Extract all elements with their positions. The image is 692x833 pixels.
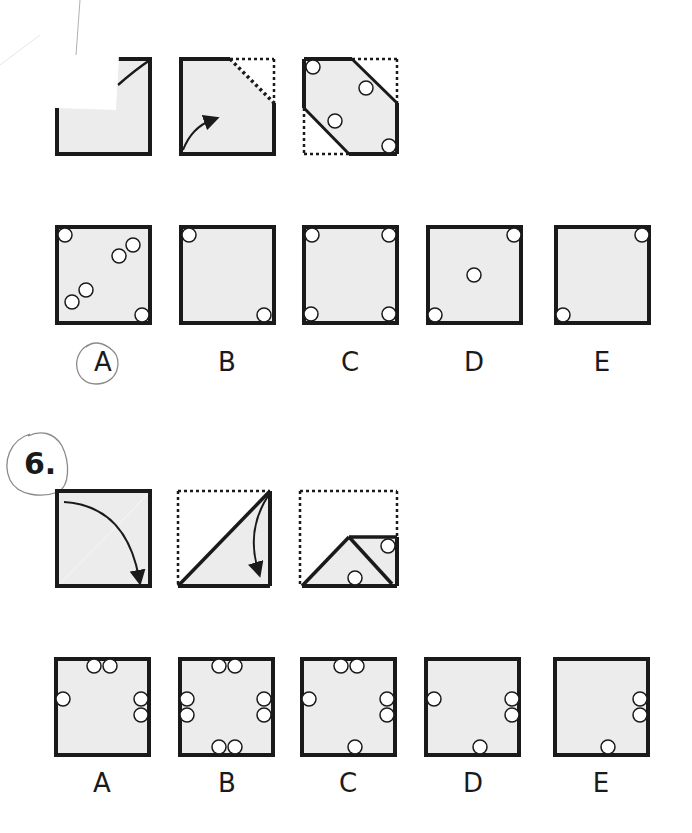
q6-answer-a[interactable] (56, 659, 149, 755)
q6-answer-d[interactable] (426, 659, 519, 755)
q5-answer-b[interactable] (181, 227, 274, 323)
q5-fold-step-2 (181, 59, 274, 154)
question-number: 6. (24, 446, 56, 481)
q5-label-b[interactable]: B (197, 347, 257, 377)
q5-answer-c[interactable] (304, 227, 397, 323)
q6-label-e[interactable]: E (571, 768, 631, 798)
puzzle-canvas (0, 0, 692, 833)
q5-label-a[interactable]: A (73, 347, 133, 377)
q5-label-d[interactable]: D (444, 347, 504, 377)
q5-label-e[interactable]: E (572, 347, 632, 377)
q6-label-a[interactable]: A (72, 768, 132, 798)
q6-answer-e[interactable] (555, 659, 648, 755)
q6-fold-step-3 (300, 491, 397, 586)
q5-answer-a[interactable] (57, 227, 150, 323)
q5-label-c[interactable]: C (320, 347, 380, 377)
q6-fold-step-2 (178, 491, 270, 586)
q6-answer-c[interactable] (302, 659, 395, 755)
q6-label-c[interactable]: C (318, 768, 378, 798)
q6-label-b[interactable]: B (197, 768, 257, 798)
q5-answer-d[interactable] (428, 227, 521, 323)
q6-label-d[interactable]: D (443, 768, 503, 798)
q6-answer-b[interactable] (180, 659, 273, 755)
q6-fold-step-1 (57, 491, 150, 586)
q5-answer-e[interactable] (556, 227, 649, 323)
paper-overlay (0, 0, 122, 110)
q5-fold-step-3 (304, 59, 397, 154)
